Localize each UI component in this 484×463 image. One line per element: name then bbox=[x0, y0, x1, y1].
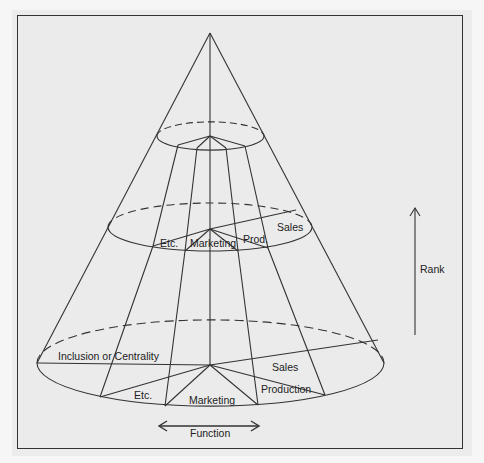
rank-axis-label: Rank bbox=[420, 264, 445, 275]
bottom-label-sales: Sales bbox=[272, 362, 298, 373]
middle-label-etc: Etc. bbox=[160, 238, 178, 249]
cone-left-edge bbox=[37, 33, 210, 363]
cone-right-edge bbox=[210, 33, 384, 363]
bottom-label-marketing: Marketing bbox=[189, 395, 235, 406]
bottom-label-production: Production bbox=[261, 384, 311, 395]
function-axis-label: Function bbox=[190, 428, 230, 439]
middle-label-prod: Prod. bbox=[243, 234, 268, 245]
radial-line-marketing-left bbox=[165, 148, 197, 406]
cone-diagram bbox=[0, 0, 484, 463]
radial-line-marketing-right bbox=[226, 148, 258, 405]
bottom-label-inclusion: Inclusion or Centrality bbox=[58, 351, 159, 362]
middle-label-sales: Sales bbox=[277, 222, 303, 233]
bottom-label-etc: Etc. bbox=[134, 390, 152, 401]
middle-label-marketing: Marketing bbox=[190, 238, 236, 249]
